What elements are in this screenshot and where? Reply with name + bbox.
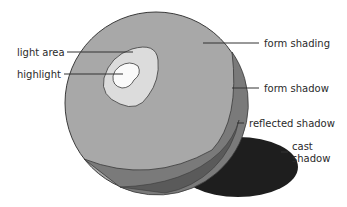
label-cast-shadow-line1: cast	[292, 141, 313, 152]
sphere-diagram: light area highlight form shading form s…	[0, 0, 347, 207]
label-cast-shadow-line2: shadow	[292, 153, 330, 164]
label-light-area: light area	[17, 47, 65, 58]
label-highlight: highlight	[17, 69, 61, 80]
label-form-shadow: form shadow	[264, 83, 329, 94]
label-reflected-shadow: reflected shadow	[249, 118, 335, 129]
label-form-shading: form shading	[264, 38, 330, 49]
